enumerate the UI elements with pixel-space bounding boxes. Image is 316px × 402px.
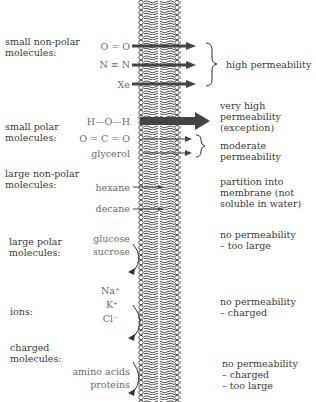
ion-chloride: Cl⁻ [103, 313, 118, 324]
result-charged-too-large: no permeability– charged– too large [222, 358, 298, 391]
result-moderate-permeability: moderatepermeability [220, 140, 281, 162]
category-label-small-nonpolar: small non-polarmolecules: [5, 36, 80, 58]
molecule-glycerol: glycerol [91, 148, 130, 159]
molecule-co2: O = C = O [79, 133, 130, 144]
ion-potassium: K⁺ [106, 299, 118, 310]
molecule-hexane: hexane [95, 182, 130, 193]
molecule-proteins: proteins [90, 379, 130, 390]
molecule-water: H—O—H [87, 116, 130, 127]
result-partition: partition intomembrane (notsoluble in wa… [220, 176, 301, 209]
result-ions-charged: no permeability– charged [220, 296, 296, 318]
molecule-decane: decane [96, 203, 130, 214]
result-water-very-high: very highpermeability(exception) [220, 100, 281, 133]
category-label-large-nonpolar: large non-polarmolecules: [5, 168, 79, 190]
molecule-xenon: Xe [118, 79, 130, 90]
result-high-permeability: high permeability [226, 59, 311, 70]
molecule-amino-acids: amino acids [72, 366, 130, 377]
molecule-glucose: glucose [93, 233, 130, 244]
molecule-oxygen: O = O [100, 41, 130, 52]
category-label-charged: chargedmolecules: [10, 342, 62, 364]
category-label-ions: ions: [10, 306, 33, 317]
category-label-small-polar: small polarmolecules: [5, 121, 59, 143]
category-label-large-polar: large polarmolecules: [9, 236, 62, 258]
molecule-sucrose: sucrose [93, 246, 130, 257]
ion-sodium: Na⁺ [101, 285, 120, 296]
result-too-large: no permeability– too large [220, 229, 296, 251]
molecule-nitrogen: N ≡ N [99, 59, 130, 70]
